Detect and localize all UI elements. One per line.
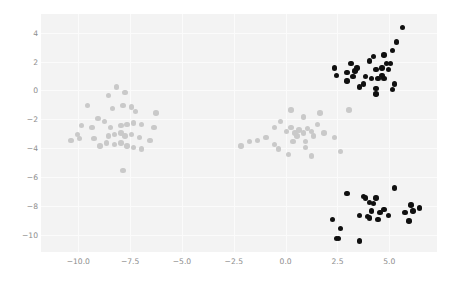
- scatter-plot-figure: −10.0−7.5−5.0−2.50.02.55.0 420−2−4−6−8−1…: [0, 0, 463, 289]
- y-tick-label: −6: [2, 172, 38, 181]
- y-tick-label: −8: [2, 201, 38, 210]
- y-tick-label: −10: [2, 230, 38, 239]
- y-tick-label: 4: [2, 28, 38, 37]
- y-axis-tick-labels: 420−2−4−6−8−10: [0, 0, 463, 289]
- y-tick-label: 0: [2, 86, 38, 95]
- y-tick-label: −4: [2, 144, 38, 153]
- y-tick-label: −2: [2, 115, 38, 124]
- y-tick-label: 2: [2, 57, 38, 66]
